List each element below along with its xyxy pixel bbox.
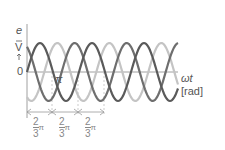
pi-label: π bbox=[55, 74, 62, 85]
phase-shift-arrows bbox=[27, 109, 104, 115]
phase-label-3: 2 3 π bbox=[85, 116, 96, 139]
origin-label: 0 bbox=[17, 66, 23, 77]
x-axis-symbol: ωt bbox=[181, 73, 193, 84]
y-axis-unit: V bbox=[15, 42, 22, 53]
x-axis-unit: [rad] bbox=[181, 86, 203, 97]
y-axis-symbol: e bbox=[16, 25, 22, 36]
phase-label-1: 2 3 π bbox=[33, 116, 44, 139]
phase-label-2: 2 3 π bbox=[59, 116, 70, 139]
